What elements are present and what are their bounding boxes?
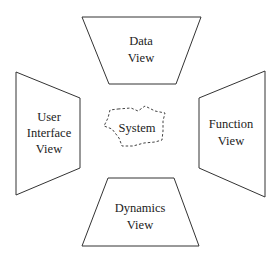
views-diagram: Data View User Interface View Function V… (0, 0, 279, 257)
dynamics-view-node: Dynamics View (82, 178, 199, 246)
user-interface-view-label-line3: View (36, 142, 62, 156)
data-view-label-line1: Data (129, 34, 153, 48)
data-view-label-line2: View (128, 51, 154, 65)
dynamics-view-label-line1: Dynamics (115, 201, 166, 215)
user-interface-view-node: User Interface View (16, 72, 80, 195)
data-view-node: Data View (82, 17, 201, 84)
dynamics-view-label-line2: View (127, 218, 153, 232)
user-interface-view-label-line2: Interface (27, 126, 72, 140)
system-label: System (119, 121, 156, 135)
function-view-label-line1: Function (209, 117, 254, 131)
function-view-node: Function View (199, 71, 265, 197)
function-view-label-line2: View (218, 134, 244, 148)
system-node: System (104, 106, 165, 146)
user-interface-view-label-line1: User (37, 110, 61, 124)
